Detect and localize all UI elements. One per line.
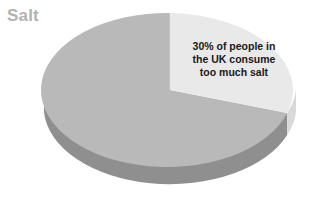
annotation-line-1: 30% of people in — [176, 40, 292, 53]
pie-chart-graphic — [0, 0, 332, 198]
salt-pie-chart-figure: Salt 30% of people in the UK consume too… — [0, 0, 332, 198]
annotation-line-3: too much salt — [176, 66, 292, 79]
annotation-line-2: the UK consume — [176, 53, 292, 66]
page-title: Salt — [7, 7, 39, 24]
slice-annotation-label: 30% of people in the UK consume too much… — [176, 40, 292, 78]
